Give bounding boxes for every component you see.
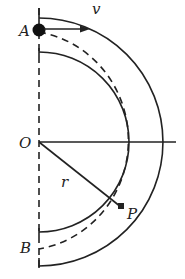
label-a: A (17, 22, 30, 40)
track-diagram: v A O r P B (0, 0, 185, 279)
label-r: r (61, 173, 69, 191)
label-v: v (92, 0, 101, 18)
radius-line (39, 142, 121, 207)
label-p: P (126, 205, 138, 223)
label-o: O (19, 134, 31, 152)
label-b: B (19, 239, 31, 257)
ball-a (33, 24, 46, 37)
point-p-marker (118, 203, 124, 209)
